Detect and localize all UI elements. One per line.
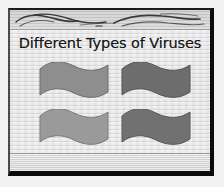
- band-baseline: [10, 29, 210, 30]
- flag-shape-top-right: [120, 62, 192, 102]
- flag-icon: [38, 109, 110, 149]
- flag-icon: [120, 109, 192, 149]
- footer-divider: [10, 153, 210, 154]
- brush-stroke-icon: [10, 10, 210, 30]
- flag-shape-top-left: [38, 62, 110, 102]
- flag-shape-bottom-left: [38, 109, 110, 149]
- page-title: Different Types of Viruses: [10, 36, 210, 51]
- flag-shape-bottom-right: [120, 109, 192, 149]
- footer-strip: [10, 154, 210, 171]
- slide-canvas: Different Types of Viruses: [0, 0, 224, 187]
- flag-grid: [24, 62, 200, 152]
- decorative-header-band: [10, 10, 210, 30]
- flag-icon: [38, 62, 110, 102]
- flag-icon: [120, 62, 192, 102]
- slide-frame: Different Types of Viruses: [8, 8, 214, 176]
